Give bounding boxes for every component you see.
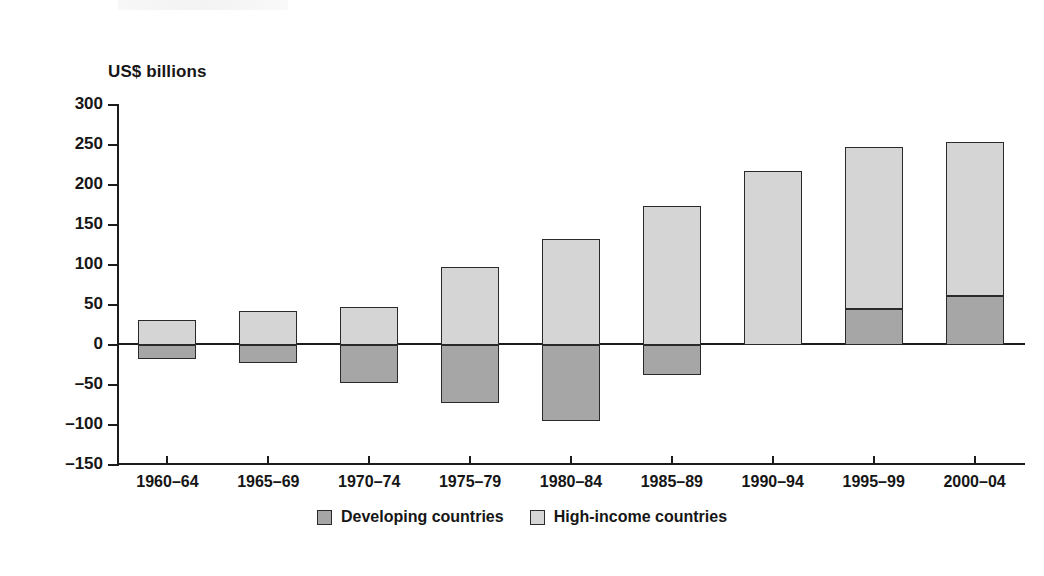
y-tick-label-250: 250 bbox=[41, 134, 103, 154]
bar-segment-developing[interactable] bbox=[946, 296, 1004, 345]
y-tick-200 bbox=[108, 184, 119, 186]
y-axis-line bbox=[117, 105, 119, 465]
x-tick-label-2: 1970–74 bbox=[314, 473, 424, 491]
x-tick-0 bbox=[166, 456, 168, 465]
x-tick-4 bbox=[570, 456, 572, 465]
chart-legend: Developing countries High-income countri… bbox=[0, 508, 1044, 526]
x-tick-3 bbox=[469, 456, 471, 465]
x-tick-1 bbox=[267, 456, 269, 465]
bar-segment-developing[interactable] bbox=[643, 345, 701, 375]
bar-segment-high-income[interactable] bbox=[239, 311, 297, 345]
y-tick-label-50: 50 bbox=[41, 294, 103, 314]
bar-segment-developing[interactable] bbox=[542, 345, 600, 421]
x-tick-2 bbox=[368, 456, 370, 465]
y-tick-label--150: –150 bbox=[41, 454, 103, 474]
y-tick--100 bbox=[108, 424, 119, 426]
y-tick-label--50: –50 bbox=[41, 374, 103, 394]
bar-segment-developing[interactable] bbox=[845, 309, 903, 345]
y-tick-50 bbox=[108, 304, 119, 306]
y-tick--50 bbox=[108, 384, 119, 386]
x-tick-label-8: 2000–04 bbox=[920, 473, 1030, 491]
bar-segment-high-income[interactable] bbox=[542, 239, 600, 345]
y-axis-title: US$ billions bbox=[108, 62, 207, 82]
bar-segment-developing[interactable] bbox=[441, 345, 499, 403]
y-tick-250 bbox=[108, 144, 119, 146]
y-tick-0 bbox=[108, 344, 119, 346]
x-tick-label-7: 1995–99 bbox=[819, 473, 929, 491]
legend-label-developing: Developing countries bbox=[341, 508, 504, 526]
bar-segment-high-income[interactable] bbox=[138, 320, 196, 345]
y-tick-150 bbox=[108, 224, 119, 226]
x-tick-5 bbox=[671, 456, 673, 465]
y-tick-label-150: 150 bbox=[41, 214, 103, 234]
bar-segment-high-income[interactable] bbox=[441, 267, 499, 345]
bar-segment-high-income[interactable] bbox=[643, 206, 701, 345]
x-tick-label-3: 1975–79 bbox=[415, 473, 525, 491]
y-tick-label-100: 100 bbox=[41, 254, 103, 274]
bar-segment-high-income[interactable] bbox=[744, 171, 802, 345]
legend-swatch-icon-high-income bbox=[530, 510, 545, 525]
y-tick-100 bbox=[108, 264, 119, 266]
legend-item-high-income[interactable]: High-income countries bbox=[530, 508, 727, 526]
y-tick--150 bbox=[108, 464, 119, 466]
bar-segment-developing[interactable] bbox=[138, 345, 196, 359]
y-tick-300 bbox=[108, 104, 119, 106]
chart-figure: US$ billions 300250200150100500–50–100–1… bbox=[0, 0, 1044, 576]
bar-segment-high-income[interactable] bbox=[845, 147, 903, 309]
x-tick-label-5: 1985–89 bbox=[617, 473, 727, 491]
scan-artifact bbox=[118, 0, 288, 10]
x-tick-label-0: 1960–64 bbox=[112, 473, 222, 491]
bar-segment-developing[interactable] bbox=[340, 345, 398, 383]
legend-label-high-income: High-income countries bbox=[554, 508, 727, 526]
x-tick-7 bbox=[873, 456, 875, 465]
bar-segment-high-income[interactable] bbox=[946, 142, 1004, 296]
x-tick-label-4: 1980–84 bbox=[516, 473, 626, 491]
y-tick-label-300: 300 bbox=[41, 94, 103, 114]
legend-swatch-icon-developing bbox=[317, 510, 332, 525]
legend-item-developing[interactable]: Developing countries bbox=[317, 508, 504, 526]
y-tick-label-0: 0 bbox=[41, 334, 103, 354]
x-tick-8 bbox=[974, 456, 976, 465]
bar-segment-developing[interactable] bbox=[239, 345, 297, 363]
y-tick-label-200: 200 bbox=[41, 174, 103, 194]
plot-area bbox=[117, 105, 1025, 465]
y-tick-label--100: –100 bbox=[41, 414, 103, 434]
x-tick-label-6: 1990–94 bbox=[718, 473, 828, 491]
x-tick-label-1: 1965–69 bbox=[213, 473, 323, 491]
x-tick-6 bbox=[772, 456, 774, 465]
bar-segment-high-income[interactable] bbox=[340, 307, 398, 345]
